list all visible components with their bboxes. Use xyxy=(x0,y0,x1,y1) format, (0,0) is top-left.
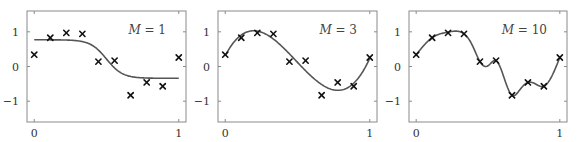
data-point-marker xyxy=(144,80,149,85)
data-point-marker xyxy=(176,55,181,60)
data-point-marker xyxy=(477,59,482,64)
x-tick-label: 1 xyxy=(556,127,563,140)
model-order-label: M = 1 xyxy=(127,23,166,37)
x-tick-label: 0 xyxy=(413,127,420,140)
data-point-marker xyxy=(96,59,101,64)
data-point-marker xyxy=(287,59,292,64)
data-point-marker xyxy=(414,52,419,57)
y-tick-label: 1 xyxy=(12,26,19,39)
data-point-marker xyxy=(64,30,69,35)
data-point-marker xyxy=(351,84,356,89)
fit-curve xyxy=(225,31,370,91)
data-point-marker xyxy=(335,80,340,85)
data-point-marker xyxy=(32,52,37,57)
data-point-marker xyxy=(319,93,324,98)
data-point-marker xyxy=(80,31,85,36)
chart-panel-m1: 01−101M = 1 xyxy=(3,11,186,140)
x-tick-label: 0 xyxy=(222,127,229,140)
y-tick-label: 1 xyxy=(394,26,401,39)
data-point-marker xyxy=(112,58,117,63)
chart-panel-m3: 01−101M = 3 xyxy=(194,11,377,140)
data-point-marker xyxy=(160,84,165,89)
y-tick-label: −1 xyxy=(3,95,19,108)
model-order-label: M = 10 xyxy=(501,23,547,37)
y-tick-label: 0 xyxy=(12,61,19,74)
y-tick-label: −1 xyxy=(194,95,210,108)
x-tick-label: 0 xyxy=(31,127,38,140)
data-point-marker xyxy=(430,35,435,40)
fit-curve xyxy=(34,40,179,78)
y-tick-label: 0 xyxy=(394,61,401,74)
data-point-marker xyxy=(303,58,308,63)
data-point-marker xyxy=(128,93,133,98)
chart-panel-m10: 01−101M = 10 xyxy=(385,11,567,140)
model-order-label: M = 3 xyxy=(318,23,357,37)
fit-curve xyxy=(416,31,560,96)
y-tick-label: −1 xyxy=(385,95,401,108)
data-point-marker xyxy=(271,31,276,36)
data-point-marker xyxy=(223,52,228,57)
x-tick-label: 1 xyxy=(366,127,373,140)
chart-figure: 01−101M = 101−101M = 301−101M = 10 xyxy=(0,0,585,142)
x-tick-label: 1 xyxy=(175,127,182,140)
y-tick-label: 0 xyxy=(203,61,210,74)
y-tick-label: 1 xyxy=(203,26,210,39)
data-point-marker xyxy=(461,31,466,36)
